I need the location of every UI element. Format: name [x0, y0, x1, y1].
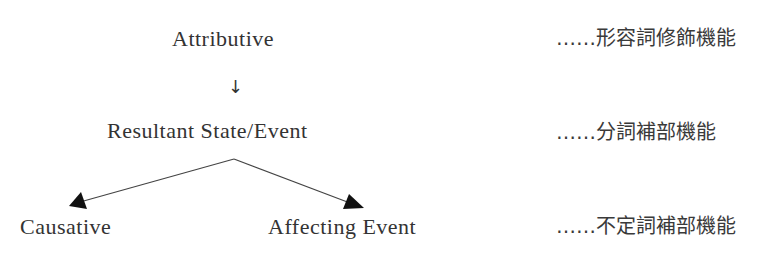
function-label-causative-affecting: ……不定詞補部機能 — [556, 216, 736, 236]
function-label-resultant: ……分詞補部機能 — [556, 122, 716, 142]
node-affecting-event: Affecting Event — [268, 216, 416, 238]
edge-to-causative — [80, 159, 234, 202]
edge-to-affecting-event — [234, 159, 350, 203]
function-label-attributive: ……形容詞修飾機能 — [556, 28, 736, 48]
node-causative: Causative — [20, 216, 111, 238]
arrowhead-affecting-event-icon — [343, 194, 364, 209]
